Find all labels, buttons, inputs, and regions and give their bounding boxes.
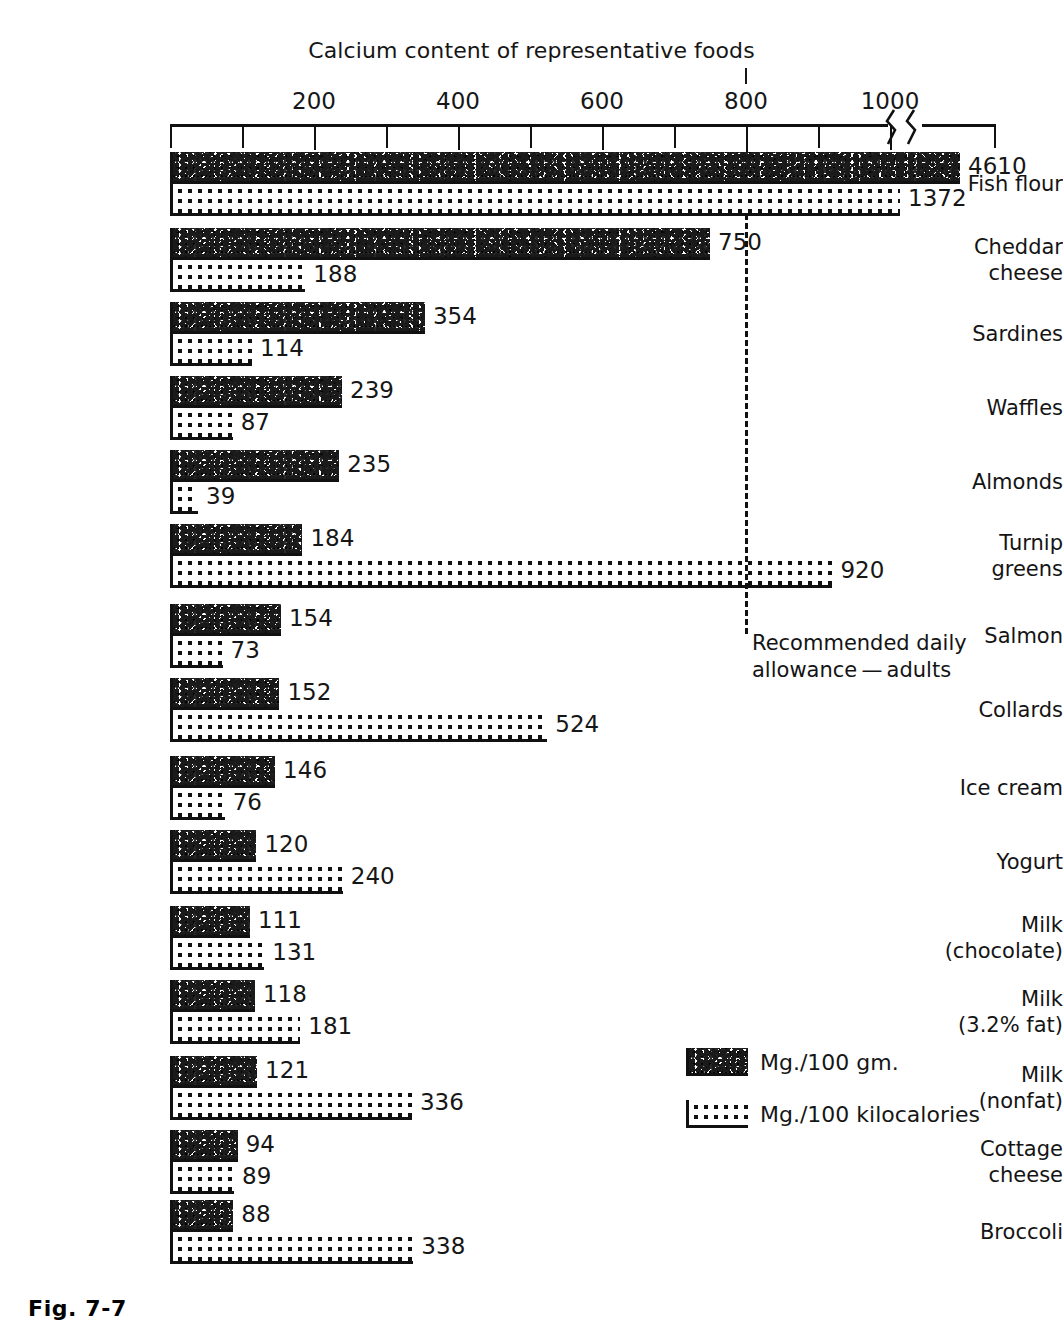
legend-label: Mg./100 gm. <box>760 1050 899 1075</box>
bar-value-mg-per-100gm: 111 <box>258 907 302 933</box>
bar-value-mg-per-100gm: 235 <box>347 451 391 477</box>
bar-mg-per-100gm <box>170 830 256 862</box>
chart-row: Milk (3.2% fat)118181 <box>0 980 1063 1044</box>
bar-value-mg-per-100gm: 184 <box>310 525 354 551</box>
bar-mg-per-100gm <box>170 1130 238 1162</box>
bar-mg-per-100gm <box>170 980 255 1012</box>
category-label: Collards <box>913 697 1063 723</box>
bar-value-mg-per-100kcal: 73 <box>231 637 260 663</box>
bar-value-mg-per-100kcal: 89 <box>242 1163 271 1189</box>
bar-mg-per-100kcal <box>170 938 264 970</box>
bar-value-mg-per-100gm: 118 <box>263 981 307 1007</box>
bar-mg-per-100kcal <box>170 710 547 742</box>
chart-row: Almonds23539 <box>0 450 1063 514</box>
bar-mg-per-100gm <box>170 302 425 334</box>
bar-mg-per-100gm <box>170 906 250 938</box>
rda-annotation-label: Recommended daily allowance — adults <box>752 630 967 684</box>
bar-mg-per-100kcal <box>170 556 832 588</box>
legend-swatch-speckle <box>686 1048 748 1076</box>
bar-value-mg-per-100kcal: 920 <box>840 557 884 583</box>
bar-mg-per-100kcal <box>170 862 343 894</box>
bar-mg-per-100gm <box>170 678 279 710</box>
bar-mg-per-100kcal <box>170 1162 234 1194</box>
chart-row: Ice cream14676 <box>0 756 1063 820</box>
bar-value-mg-per-100gm: 152 <box>287 679 331 705</box>
category-label: Broccoli <box>913 1219 1063 1245</box>
bar-mg-per-100gm <box>170 524 302 556</box>
bar-mg-per-100kcal <box>170 482 198 514</box>
chart-row: Collards152524 <box>0 678 1063 742</box>
chart-row: Cheddar cheese750188 <box>0 228 1063 292</box>
bar-mg-per-100gm <box>170 1200 233 1232</box>
bar-mg-per-100gm <box>170 756 275 788</box>
category-label: Turnip greens <box>913 530 1063 582</box>
chart-row: Milk (chocolate)111131 <box>0 906 1063 970</box>
bar-value-mg-per-100kcal: 336 <box>420 1089 464 1115</box>
bar-value-mg-per-100gm: 146 <box>283 757 327 783</box>
bar-value-mg-per-100gm: 88 <box>241 1201 270 1227</box>
bar-mg-per-100kcal <box>170 636 223 668</box>
calcium-content-bar-chart: Calcium content of representative foods … <box>0 0 1063 1339</box>
category-label: Waffles <box>913 395 1063 421</box>
chart-row: Turnip greens184920 <box>0 524 1063 588</box>
bar-mg-per-100kcal <box>170 1012 300 1044</box>
bar-value-mg-per-100kcal: 39 <box>206 483 235 509</box>
category-label: Milk (3.2% fat) <box>913 986 1063 1038</box>
bar-value-mg-per-100gm: 94 <box>246 1131 275 1157</box>
bar-value-mg-per-100kcal: 76 <box>233 789 262 815</box>
chart-row: Fish flour46101372 <box>0 152 1063 216</box>
bar-value-mg-per-100kcal: 181 <box>308 1013 352 1039</box>
bar-value-mg-per-100kcal: 188 <box>313 261 357 287</box>
bar-mg-per-100kcal <box>170 260 305 292</box>
bar-value-mg-per-100gm: 354 <box>433 303 477 329</box>
category-label: Cheddar cheese <box>913 234 1063 286</box>
bar-mg-per-100kcal <box>170 334 252 366</box>
bar-value-mg-per-100kcal: 87 <box>241 409 270 435</box>
bar-value-mg-per-100kcal: 524 <box>555 711 599 737</box>
legend-label: Mg./100 kilocalories <box>760 1102 980 1127</box>
bar-value-mg-per-100kcal: 240 <box>351 863 395 889</box>
bar-value-mg-per-100gm: 120 <box>264 831 308 857</box>
chart-row: Yogurt120240 <box>0 830 1063 894</box>
bar-mg-per-100kcal <box>170 408 233 440</box>
bar-value-mg-per-100gm: 154 <box>289 605 333 631</box>
chart-row: Cottage cheese9489 <box>0 1130 1063 1194</box>
bar-value-mg-per-100kcal: 338 <box>421 1233 465 1259</box>
bar-mg-per-100kcal <box>170 788 225 820</box>
bar-mg-per-100kcal <box>170 1232 413 1264</box>
category-label: Yogurt <box>913 849 1063 875</box>
bar-value-mg-per-100gm: 239 <box>350 377 394 403</box>
bar-mg-per-100kcal <box>170 184 900 216</box>
category-label: Ice cream <box>913 775 1063 801</box>
rda-reference-line <box>745 214 748 634</box>
bar-mg-per-100gm <box>170 228 710 260</box>
legend-item: Mg./100 kilocalories <box>686 1100 980 1128</box>
bar-value-mg-per-100kcal: 114 <box>260 335 304 361</box>
chart-row: Waffles23987 <box>0 376 1063 440</box>
category-label: Sardines <box>913 321 1063 347</box>
chart-row: Sardines354114 <box>0 302 1063 366</box>
bar-mg-per-100gm <box>170 450 339 482</box>
bar-mg-per-100kcal <box>170 1088 412 1120</box>
legend-swatch-dots <box>686 1100 748 1128</box>
chart-row: Broccoli88338 <box>0 1200 1063 1264</box>
figure-caption: Fig. 7-7 <box>28 1296 127 1321</box>
category-label: Cottage cheese <box>913 1136 1063 1188</box>
bar-mg-per-100gm <box>170 604 281 636</box>
bar-mg-per-100gm <box>170 376 342 408</box>
legend-item: Mg./100 gm. <box>686 1048 899 1076</box>
bar-value-mg-per-100kcal: 131 <box>272 939 316 965</box>
bar-mg-per-100gm <box>170 1056 257 1088</box>
category-label: Almonds <box>913 469 1063 495</box>
bar-value-mg-per-100kcal: 1372 <box>908 185 967 211</box>
bar-value-mg-per-100gm: 750 <box>718 229 762 255</box>
bar-value-mg-per-100gm: 4610 <box>968 153 1027 179</box>
bar-mg-per-100gm <box>170 152 960 184</box>
bar-value-mg-per-100gm: 121 <box>265 1057 309 1083</box>
category-label: Milk (chocolate) <box>913 912 1063 964</box>
